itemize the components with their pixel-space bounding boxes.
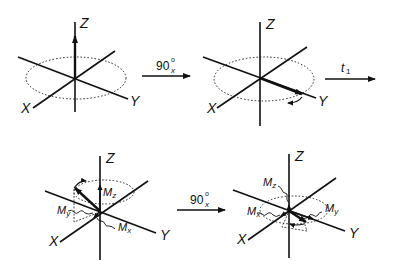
z-label: Z	[265, 16, 275, 32]
x-axis	[248, 178, 336, 240]
svg-text:1: 1	[346, 67, 351, 76]
svg-text:t: t	[341, 61, 345, 75]
y-label: Y	[349, 225, 360, 241]
svg-text:90: 90	[156, 59, 170, 73]
svg-text:o: o	[205, 190, 209, 197]
mz-label: Mz	[263, 176, 276, 190]
panel-bottom-right: Mz Mx My Z X Y	[233, 148, 360, 258]
panel-top-left: Z X Y	[18, 15, 141, 116]
my-label: My	[57, 204, 71, 218]
diagram-canvas: Z X Y 90 o x Z X Y t 1	[0, 0, 393, 268]
precession-ellipse	[260, 196, 328, 224]
pulse-arrow-1: 90 o x	[142, 56, 190, 76]
y-label: Y	[130, 93, 141, 109]
mz-label: Mz	[103, 186, 116, 200]
z-label: Z	[294, 148, 304, 164]
x-label: X	[206, 100, 217, 116]
pulse-arrow-2: 90 o x	[177, 190, 225, 210]
x-label: X	[48, 233, 59, 249]
magnetization-vector	[260, 78, 302, 94]
x-label: X	[20, 100, 31, 116]
z-label: Z	[105, 150, 115, 166]
svg-text:x: x	[204, 200, 210, 209]
delay-arrow: t 1	[325, 61, 375, 79]
svg-text:90: 90	[190, 193, 204, 207]
y-label: Y	[318, 93, 329, 109]
x-label: X	[236, 231, 247, 247]
svg-text:x: x	[170, 66, 176, 75]
z-label: Z	[79, 15, 89, 31]
my-label: My	[325, 202, 339, 216]
y-label: Y	[160, 227, 171, 243]
panel-bottom-left: Mz My Mx Z X Y	[45, 150, 171, 260]
svg-text:o: o	[171, 56, 175, 63]
mx-label: Mx	[247, 205, 261, 219]
panel-top-right: Z X Y	[203, 16, 329, 126]
